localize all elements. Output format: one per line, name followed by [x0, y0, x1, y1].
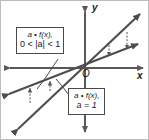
- callout-identity: a • f(x), a = 1: [68, 88, 105, 115]
- graph-canvas: [0, 0, 149, 140]
- callout-identity-line1: a • f(x),: [74, 91, 99, 100]
- figure-border: [1, 1, 149, 140]
- origin-label: O: [82, 68, 90, 79]
- callout-compress-line2: 0 < |a| < 1: [20, 39, 60, 50]
- x-axis-label: x: [137, 70, 143, 81]
- callout-identity-line2: a = 1: [74, 100, 99, 111]
- callout-compress-leader: [37, 59, 58, 89]
- y-axis-label: y: [92, 2, 98, 13]
- callout-compress: a • f(x), 0 < |a| < 1: [16, 27, 64, 54]
- vertical-compression-figure: y x O a • f(x), 0 < |a| < 1 a • f(x), a …: [0, 0, 149, 140]
- callout-compress-line1: a • f(x),: [20, 30, 60, 39]
